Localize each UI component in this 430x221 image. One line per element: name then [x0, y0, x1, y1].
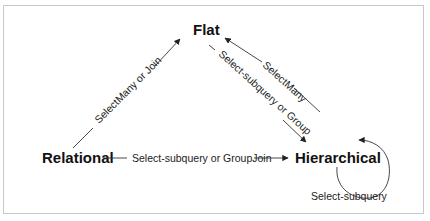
edge-relational-to-hierarchical: Select-subquery or GroupJoin	[103, 152, 288, 164]
edge-label-select-subquery: Select-subquery	[311, 190, 388, 202]
edge-line-segment	[209, 45, 215, 50]
node-flat: Flat	[193, 21, 220, 38]
transformation-diagram: Flat Relational Hierarchical SelectMany …	[0, 0, 430, 221]
node-relational: Relational	[42, 149, 114, 166]
node-hierarchical: Hierarchical	[295, 149, 381, 166]
edge-label-selectmany-or-join: SelectMany or Join	[92, 54, 164, 126]
edge-line-segment	[73, 128, 93, 148]
edge-label-select-subquery-or-groupjoin: Select-subquery or GroupJoin	[132, 152, 272, 164]
edge-relational-to-flat: SelectMany or Join	[73, 39, 180, 148]
